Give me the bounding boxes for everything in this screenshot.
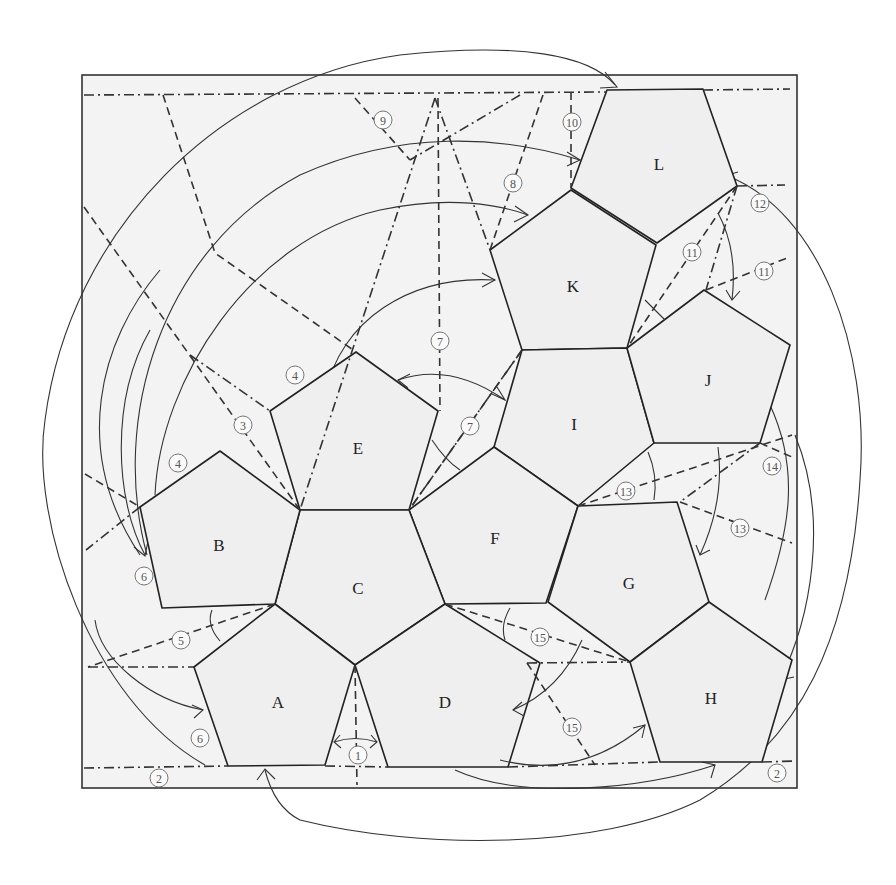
step-number: 11 xyxy=(686,246,698,260)
face-label-G: G xyxy=(623,574,635,593)
step-marker-9: 9 xyxy=(374,111,392,129)
step-marker-4: 4 xyxy=(286,366,304,384)
face-label-J: J xyxy=(705,371,712,390)
step-marker-15: 15 xyxy=(563,718,581,736)
step-number: 7 xyxy=(467,420,473,434)
face-label-E: E xyxy=(353,439,363,458)
step-number: 10 xyxy=(566,116,578,130)
step-number: 1 xyxy=(355,749,361,763)
step-number: 5 xyxy=(178,634,184,648)
face-label-F: F xyxy=(490,529,499,548)
step-number: 13 xyxy=(620,485,632,499)
step-number: 12 xyxy=(754,197,766,211)
step-number: 4 xyxy=(175,457,181,471)
step-marker-7: 7 xyxy=(431,332,449,350)
face-label-B: B xyxy=(213,536,224,555)
step-marker-4: 4 xyxy=(169,454,187,472)
step-marker-2: 2 xyxy=(150,769,168,787)
step-marker-7: 7 xyxy=(461,417,479,435)
crease-pattern-diagram: A B C D E F G H I J K L 1223445667789101… xyxy=(0,0,896,885)
step-marker-11: 11 xyxy=(683,243,701,261)
step-number: 13 xyxy=(734,522,746,536)
step-marker-3: 3 xyxy=(234,416,252,434)
step-number: 11 xyxy=(758,265,770,279)
mountain-fold xyxy=(737,185,785,186)
step-marker-14: 14 xyxy=(763,457,781,475)
step-number: 6 xyxy=(197,732,203,746)
step-marker-6: 6 xyxy=(191,729,209,747)
face-label-I: I xyxy=(571,415,577,434)
step-number: 3 xyxy=(240,419,246,433)
step-number: 2 xyxy=(156,772,162,786)
step-number: 4 xyxy=(292,369,298,383)
step-marker-12: 12 xyxy=(751,194,769,212)
face-label-L: L xyxy=(654,155,664,174)
face-label-D: D xyxy=(439,693,451,712)
face-label-C: C xyxy=(352,579,363,598)
step-marker-13: 13 xyxy=(731,519,749,537)
step-number: 7 xyxy=(437,335,443,349)
face-label-H: H xyxy=(705,689,717,708)
step-number: 14 xyxy=(766,460,778,474)
step-marker-15: 15 xyxy=(531,628,549,646)
step-marker-8: 8 xyxy=(504,174,522,192)
step-marker-2: 2 xyxy=(768,764,786,782)
face-label-A: A xyxy=(272,693,285,712)
step-marker-6: 6 xyxy=(135,567,153,585)
face-label-K: K xyxy=(567,277,580,296)
step-number: 8 xyxy=(510,177,516,191)
step-number: 15 xyxy=(566,721,578,735)
step-marker-1: 1 xyxy=(349,746,367,764)
step-number: 15 xyxy=(534,631,546,645)
step-marker-11: 11 xyxy=(755,262,773,280)
step-marker-13: 13 xyxy=(617,482,635,500)
step-number: 6 xyxy=(141,570,147,584)
step-marker-5: 5 xyxy=(172,631,190,649)
step-number: 9 xyxy=(380,114,386,128)
step-number: 2 xyxy=(774,767,780,781)
step-marker-10: 10 xyxy=(563,113,581,131)
